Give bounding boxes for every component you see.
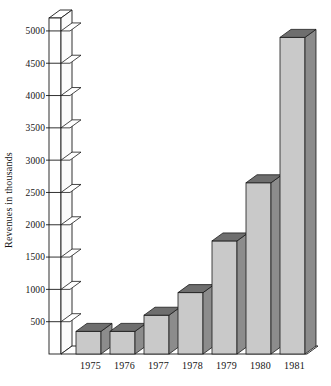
y-axis-tick-label: 4500	[26, 59, 46, 69]
x-axis-category-label: 1980	[250, 360, 271, 371]
bar-front-face[interactable]	[246, 183, 271, 354]
x-axis-category-label: 1976	[114, 360, 135, 371]
y-axis-slab-front	[49, 18, 61, 354]
bar-front-face[interactable]	[144, 315, 169, 354]
bar-front-face[interactable]	[178, 293, 203, 354]
y-axis-tick-label: 2500	[26, 188, 46, 198]
y-axis-tick-label: 1500	[26, 252, 46, 262]
x-axis-category-label: 1975	[80, 360, 101, 371]
bar-1980[interactable]	[246, 175, 282, 354]
bar-1977[interactable]	[144, 307, 180, 354]
bar-1979[interactable]	[212, 233, 248, 354]
bar-front-face[interactable]	[110, 331, 135, 354]
y-axis-tick-label: 4000	[26, 91, 46, 101]
bar-side-face	[305, 29, 316, 354]
bar-1976[interactable]	[110, 323, 146, 354]
bar-chart-figure: 500045004000350030002500200015001000500 …	[0, 0, 331, 386]
bar-1975[interactable]	[76, 323, 112, 354]
y-axis-tick-label: 1000	[26, 285, 46, 295]
x-axis-category-label: 1977	[148, 360, 169, 371]
y-axis-tick-label: 3000	[26, 156, 46, 166]
bar-1978[interactable]	[178, 285, 214, 354]
x-axis-category-label: 1981	[284, 360, 305, 371]
y-axis-tick-label: 500	[30, 317, 45, 327]
y-axis-tick-label: 3500	[26, 123, 46, 133]
y-axis-tick-label: 5000	[26, 26, 46, 36]
bar-front-face[interactable]	[280, 37, 305, 354]
bar-1981[interactable]	[280, 29, 316, 354]
y-axis-tick-label: 2000	[26, 220, 46, 230]
y-axis-title: Revenues in thousands	[3, 152, 14, 248]
x-axis-category-label: 1979	[216, 360, 237, 371]
bar-front-face[interactable]	[76, 331, 101, 354]
x-axis-category-label: 1978	[182, 360, 203, 371]
bar-front-face[interactable]	[212, 241, 237, 354]
chart-canvas: 500045004000350030002500200015001000500 …	[0, 0, 331, 386]
